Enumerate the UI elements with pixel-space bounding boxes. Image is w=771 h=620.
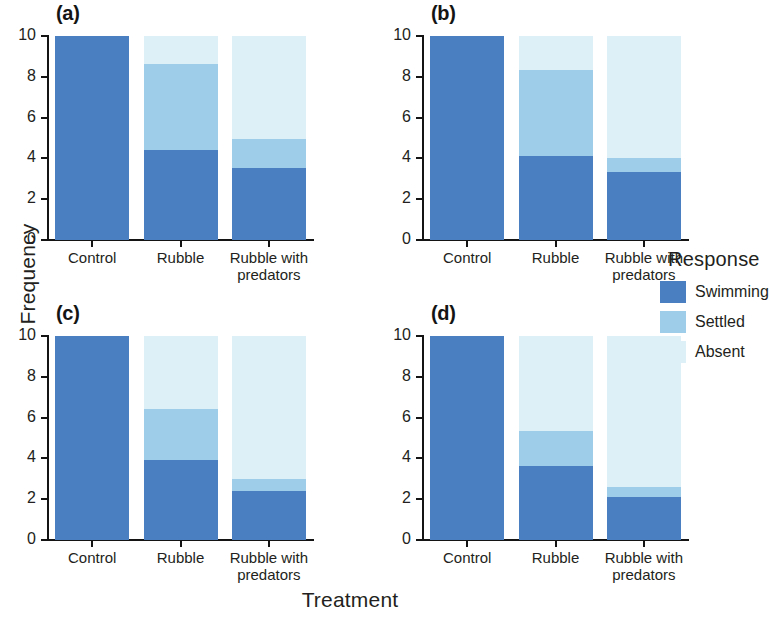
bar-segment-absent[interactable]: [232, 336, 306, 479]
legend-label-absent: Absent: [695, 343, 745, 361]
bar-segment-settled[interactable]: [144, 64, 218, 151]
legend-item-absent[interactable]: Absent: [660, 337, 769, 367]
y-tick: 8: [41, 76, 48, 78]
bar-segment-absent[interactable]: [519, 336, 593, 431]
x-tick: [555, 241, 557, 247]
plot-area: [423, 36, 688, 240]
stacked-bar[interactable]: [519, 36, 593, 240]
y-tick-label: 6: [402, 108, 411, 126]
y-tick: 6: [416, 417, 423, 419]
x-tick-label: Rubble withpredators: [210, 249, 328, 283]
legend-swatch-absent: [660, 341, 686, 363]
x-tick: [643, 241, 645, 247]
y-tick: 8: [416, 76, 423, 78]
y-tick: 4: [416, 157, 423, 159]
legend: Response Swimming Settled Absent: [660, 248, 769, 367]
y-tick-label: 6: [27, 108, 36, 126]
bar-segment-swimming[interactable]: [430, 36, 504, 240]
stacked-bar[interactable]: [519, 336, 593, 540]
bar-segment-swimming[interactable]: [519, 156, 593, 240]
x-tick-label: Rubble withpredators: [210, 549, 328, 583]
y-tick-label: 10: [393, 326, 411, 344]
y-tick-label: 0: [27, 530, 36, 548]
y-tick-label: 4: [402, 148, 411, 166]
x-tick: [555, 541, 557, 547]
stacked-bar[interactable]: [55, 336, 129, 540]
y-tick-label: 2: [402, 189, 411, 207]
y-tick: 8: [41, 376, 48, 378]
plot-area: [48, 36, 313, 240]
x-tick: [91, 241, 93, 247]
bar-segment-settled[interactable]: [232, 139, 306, 168]
bar-segment-settled[interactable]: [519, 70, 593, 157]
bar-segment-swimming[interactable]: [232, 168, 306, 240]
bar-segment-swimming[interactable]: [232, 491, 306, 540]
stacked-bar[interactable]: [430, 36, 504, 240]
x-tick: [180, 241, 182, 247]
y-tick: 10: [416, 335, 423, 337]
x-tick-label: Rubble withpredators: [585, 549, 703, 583]
bar-segment-swimming[interactable]: [430, 336, 504, 540]
stacked-bar[interactable]: [232, 336, 306, 540]
y-tick-label: 0: [27, 230, 36, 248]
bar-segment-absent[interactable]: [519, 36, 593, 70]
y-tick-label: 2: [27, 189, 36, 207]
y-tick-label: 10: [18, 326, 36, 344]
plot-area: [48, 336, 313, 540]
x-tick: [91, 541, 93, 547]
bar-segment-swimming[interactable]: [144, 150, 218, 240]
bar-segment-settled[interactable]: [144, 409, 218, 460]
legend-item-swimming[interactable]: Swimming: [660, 277, 769, 307]
stacked-bar[interactable]: [232, 36, 306, 240]
stacked-bar[interactable]: [607, 36, 681, 240]
y-tick-label: 6: [402, 408, 411, 426]
y-tick-label: 10: [18, 26, 36, 44]
y-tick: 2: [416, 498, 423, 500]
y-tick: 6: [41, 417, 48, 419]
y-tick: 6: [416, 117, 423, 119]
y-tick-label: 8: [27, 67, 36, 85]
stacked-bar[interactable]: [144, 336, 218, 540]
bar-segment-settled[interactable]: [607, 487, 681, 497]
x-tick: [466, 241, 468, 247]
legend-item-settled[interactable]: Settled: [660, 307, 769, 337]
bar-segment-settled[interactable]: [607, 158, 681, 171]
stacked-bar[interactable]: [55, 36, 129, 240]
y-tick: 0: [41, 239, 48, 241]
y-tick: 4: [41, 457, 48, 459]
y-tick: 0: [416, 239, 423, 241]
legend-title: Response: [668, 248, 769, 271]
legend-label-swimming: Swimming: [695, 283, 769, 301]
bar-segment-swimming[interactable]: [519, 466, 593, 540]
bar-segment-swimming[interactable]: [55, 36, 129, 240]
x-tick: [466, 541, 468, 547]
x-tick: [268, 241, 270, 247]
x-tick: [180, 541, 182, 547]
y-tick-label: 2: [402, 489, 411, 507]
stacked-bar[interactable]: [430, 336, 504, 540]
legend-swatch-swimming: [660, 281, 686, 303]
y-tick-label: 8: [402, 367, 411, 385]
bar-segment-absent[interactable]: [232, 36, 306, 139]
legend-swatch-settled: [660, 311, 686, 333]
y-tick-label: 10: [393, 26, 411, 44]
bar-segment-settled[interactable]: [232, 479, 306, 491]
y-tick: 10: [41, 35, 48, 37]
y-tick-label: 0: [402, 530, 411, 548]
y-tick-label: 4: [402, 448, 411, 466]
bar-segment-swimming[interactable]: [607, 497, 681, 540]
y-tick-label: 2: [27, 489, 36, 507]
panel-tag: (a): [56, 2, 80, 25]
bar-segment-absent[interactable]: [144, 336, 218, 409]
bar-segment-swimming[interactable]: [144, 460, 218, 540]
stacked-bar[interactable]: [144, 36, 218, 240]
figure: Frequency Treatment (a)0246810ControlRub…: [0, 0, 771, 620]
x-tick: [643, 541, 645, 547]
bar-segment-absent[interactable]: [144, 36, 218, 64]
bar-segment-settled[interactable]: [519, 431, 593, 466]
bar-segment-swimming[interactable]: [55, 336, 129, 540]
bar-segment-absent[interactable]: [607, 36, 681, 158]
bar-segment-swimming[interactable]: [607, 172, 681, 240]
y-tick: 2: [41, 198, 48, 200]
y-tick-label: 8: [402, 67, 411, 85]
